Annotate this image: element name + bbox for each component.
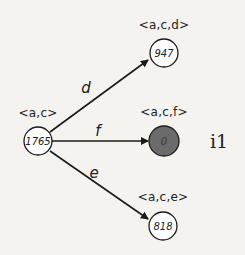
root-node-label: <a,c> [19,106,58,120]
node-d-value: 947 [154,48,173,59]
edge-e-label: e [89,164,98,182]
edge-d-label: d [81,79,91,97]
edge-e-arrow [50,151,148,219]
node-d-label: <a,c,d> [139,18,190,32]
edges-layer [0,0,245,255]
node-f-value: 0 [161,136,167,147]
node-e-value: 818 [153,221,172,232]
side-label-i1: i1 [210,130,228,152]
node-e-label: <a,c,e> [138,190,188,204]
edge-f-label: f [95,122,100,140]
root-node-value: 1765 [25,136,50,147]
tree-diagram: <a,c> 1765 <a,c,d> 947 d <a,c,f> 0 f <a,… [0,0,245,255]
node-f-label: <a,c,f> [140,105,187,119]
